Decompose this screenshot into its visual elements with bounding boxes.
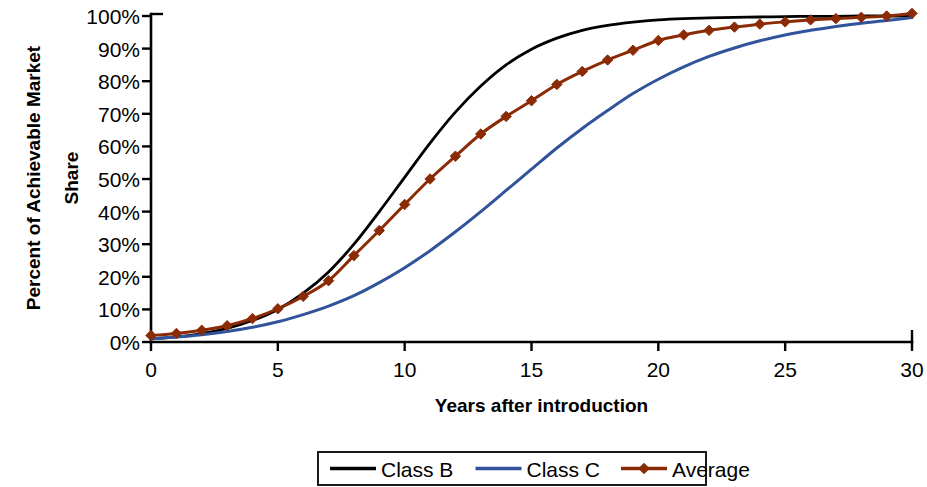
x-axis-tick-label: 10 (393, 358, 416, 381)
y-axis-tick-labels: 0%10%20%30%40%50%60%70%80%90%100% (86, 5, 140, 354)
series-class-b (151, 16, 912, 339)
axis-lines (151, 14, 912, 342)
series-marker (602, 55, 612, 65)
series-marker (729, 22, 739, 32)
y-axis-title-line: Share (61, 152, 82, 205)
y-axis-tick-label: 0% (110, 331, 140, 354)
y-axis-title-rotated: Percent of Achievable MarketShare (23, 45, 82, 310)
x-axis-tick-label: 30 (900, 358, 923, 381)
chart-canvas: 0%10%20%30%40%50%60%70%80%90%100% 051015… (0, 0, 927, 487)
y-axis-tick-label: 40% (98, 201, 140, 224)
x-axis-tick-label: 15 (520, 358, 543, 381)
series-line (151, 16, 912, 339)
x-axis-tick-label: 25 (773, 358, 796, 381)
series-line (151, 13, 912, 335)
x-axis-tick-label: 5 (272, 358, 284, 381)
series-marker (856, 12, 866, 22)
x-axis-tick-marks (151, 342, 912, 351)
y-axis-tick-label: 100% (86, 5, 140, 28)
series-marker (679, 30, 689, 40)
series-marker (628, 45, 638, 55)
series-marker (704, 25, 714, 35)
series-marker (755, 19, 765, 29)
chart-figure: 0%10%20%30%40%50%60%70%80%90%100% 051015… (0, 0, 927, 487)
y-axis-tick-label: 30% (98, 233, 140, 256)
y-axis-tick-label: 20% (98, 266, 140, 289)
y-axis-title-line: Percent of Achievable Market (23, 45, 44, 310)
x-axis-title-text: Years after introduction (435, 395, 648, 416)
series-marker (577, 66, 587, 76)
series-average (146, 8, 917, 340)
legend-label-average: Average (672, 458, 750, 481)
series-line (151, 18, 912, 339)
y-axis-title: Percent of Achievable MarketShare (23, 45, 82, 310)
series-marker (780, 17, 790, 27)
y-axis-tick-label: 80% (98, 70, 140, 93)
series-class-c (151, 18, 912, 339)
y-axis-tick-marks (142, 16, 151, 342)
x-axis-title: Years after introduction (435, 395, 648, 416)
y-axis-tick-label: 50% (98, 168, 140, 191)
y-axis-tick-label: 70% (98, 103, 140, 126)
chart-legend: Class BClass CAverage (318, 452, 750, 485)
x-axis-tick-labels: 051015202530 (145, 358, 924, 381)
y-axis-tick-label: 90% (98, 38, 140, 61)
y-axis-tick-label: 60% (98, 135, 140, 158)
y-axis-tick-label: 10% (98, 298, 140, 321)
legend-label-class-b: Class B (381, 458, 453, 481)
plot-area: 0%10%20%30%40%50%60%70%80%90%100% 051015… (86, 5, 923, 381)
x-axis-tick-label: 20 (647, 358, 670, 381)
series-marker (653, 35, 663, 45)
series-layer (146, 8, 917, 340)
legend-label-class-c: Class C (527, 458, 601, 481)
x-axis-tick-label: 0 (145, 358, 157, 381)
